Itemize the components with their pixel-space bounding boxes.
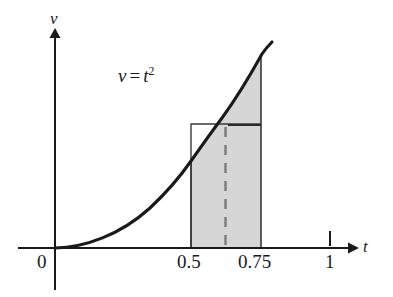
equation-annotation: v=t2 [118,66,154,85]
origin-label: 0 [37,252,47,271]
equation-exponent: 2 [148,65,154,78]
equation-operator: = [126,65,143,86]
y-axis-label: v [50,10,58,27]
x-axis-label: t [363,238,368,255]
x-tick-label-1: 1 [325,252,335,271]
figure-container: v t 0 0.5 0.75 1 v=t2 [0,0,393,297]
x-tick-label-0-75: 0.75 [238,252,271,271]
x-axis-arrowhead [348,243,359,254]
y-axis-arrowhead [50,28,61,38]
x-tick-label-0-5: 0.5 [177,252,201,271]
